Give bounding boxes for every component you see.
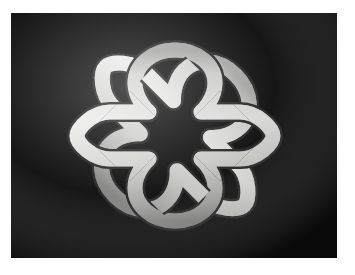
celtic-knot-artwork: [11, 13, 337, 258]
page-root: Celtic knot: [0, 0, 355, 275]
film-grain: [11, 13, 337, 258]
photo-plate: [11, 13, 337, 258]
